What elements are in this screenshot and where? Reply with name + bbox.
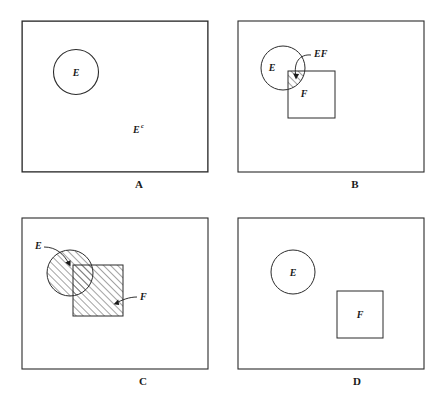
panel-a-letter: A <box>135 178 143 190</box>
panel-a-sample-space-border <box>22 21 208 172</box>
panel-b-label-f: F <box>300 88 308 99</box>
panel-b-letter: B <box>351 178 359 190</box>
panel-b-label-e: E <box>268 62 276 73</box>
panel-d-label-e: E <box>289 267 297 278</box>
panel-c-label-f: F <box>139 291 147 302</box>
panel-c-label-e: E <box>34 240 42 251</box>
panel-a-label-complement: E <box>132 124 140 135</box>
panel-b-label-ef: EF <box>313 48 328 59</box>
panel-a-label-e: E <box>72 67 80 78</box>
panel-c-letter: C <box>139 375 147 387</box>
panel-b: E F EF B <box>238 21 424 190</box>
panel-b-sample-space-rect <box>238 21 424 172</box>
panel-d: E F D <box>238 218 424 387</box>
panel-a: E E c A <box>22 21 208 190</box>
panel-c-union-fill <box>47 250 123 316</box>
panel-d-letter: D <box>353 375 361 387</box>
panel-d-label-f: F <box>356 309 364 320</box>
panel-a-sample-space-rect <box>22 21 208 172</box>
venn-diagram-figure: E E c A E F EF B <box>0 0 444 397</box>
panel-c: E F C <box>22 218 208 387</box>
figure-canvas: E E c A E F EF B <box>0 0 444 397</box>
panel-d-sample-space-rect <box>238 218 424 369</box>
panel-b-event-e-circle <box>261 46 305 90</box>
panel-b-intersection-fill <box>288 71 335 118</box>
panel-a-label-complement-superscript: c <box>141 122 144 129</box>
